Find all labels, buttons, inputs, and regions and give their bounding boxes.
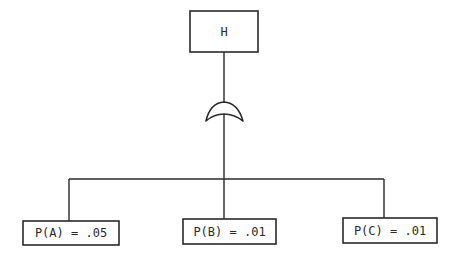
event-a-label: P(A) = .05 (35, 226, 107, 240)
top-event-h: H (190, 11, 258, 52)
basic-event-b: P(B) = .01 (183, 219, 276, 244)
basic-event-a: P(A) = .05 (23, 221, 119, 245)
event-c-label: P(C) = .01 (354, 224, 426, 238)
fault-tree-diagram: H P(A) = .05 P(B) = .01 P(C) = .01 (0, 0, 456, 260)
event-b-label: P(B) = .01 (193, 225, 265, 239)
top-event-label: H (220, 25, 227, 39)
basic-event-c: P(C) = .01 (343, 218, 437, 243)
